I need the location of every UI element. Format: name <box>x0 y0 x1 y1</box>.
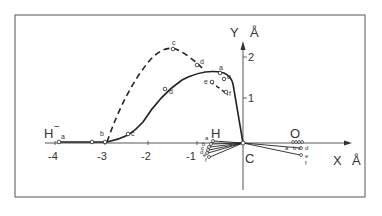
x-axis-arrow-icon <box>344 141 352 146</box>
o-label-d: d <box>305 145 308 151</box>
x-axis-unit: Å <box>352 153 361 168</box>
y-tick-label: 2 <box>248 51 254 63</box>
point-label-f: f <box>229 90 231 97</box>
x-tick-label: -1 <box>186 150 196 162</box>
point-label-c: c <box>131 130 135 137</box>
o-label-e: e <box>305 153 309 159</box>
h-label-a: a <box>205 135 209 141</box>
reaction-path-diagram: -4 -3 -2 -1 1 2 Y Å X Å H − H C O a b c … <box>0 0 382 216</box>
dashed-reaction-path <box>107 48 202 142</box>
point-label-b: b <box>100 130 104 137</box>
point-label-d: d <box>169 88 173 95</box>
x-tick-label: -2 <box>141 150 151 162</box>
o-label-a: a <box>285 145 289 151</box>
h-label-f: f <box>205 157 207 163</box>
dashed-label-c: c <box>172 39 176 46</box>
hydrogen-label: H <box>211 126 220 141</box>
figure-frame <box>15 15 365 197</box>
hydride-label: H <box>44 126 53 141</box>
point-label-a-top: a <box>219 64 223 71</box>
dashed-label-d: d <box>200 58 204 65</box>
o-label-f: f <box>305 160 307 166</box>
y-axis-unit: Å <box>250 25 259 40</box>
point-label-a: a <box>61 133 65 140</box>
y-tick-label: 1 <box>248 92 254 104</box>
x-tick-label: -3 <box>97 150 107 162</box>
y-ticks <box>243 57 247 98</box>
hydride-charge: − <box>54 121 60 132</box>
x-axis-label: X <box>333 153 342 168</box>
o-label-c: c <box>298 145 301 151</box>
path-point-labels: a b c d a e f c d e <box>61 39 231 140</box>
point-label-e: e <box>227 73 231 80</box>
carbon-label: C <box>245 151 254 166</box>
y-axis-arrow-icon <box>241 41 246 50</box>
oxygen-label: O <box>290 126 300 141</box>
carbon-center <box>241 141 245 145</box>
x-tick-label: -4 <box>48 150 58 162</box>
y-axis-label: Y <box>230 25 239 40</box>
dashed-label-e: e <box>204 78 208 85</box>
